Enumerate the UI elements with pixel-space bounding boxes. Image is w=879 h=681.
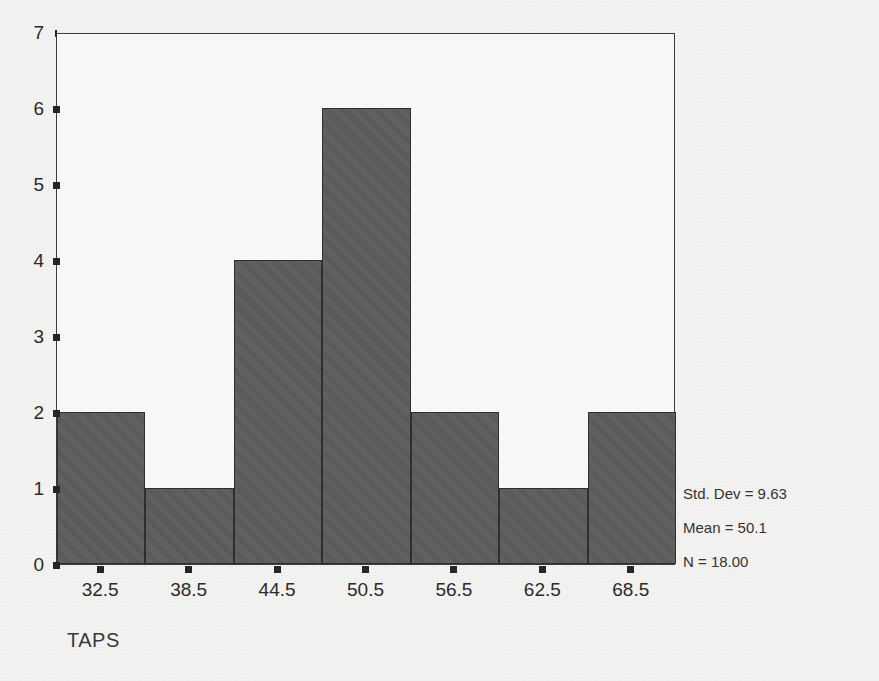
x-axis-title: TAPS <box>67 629 120 652</box>
x-axis-tick <box>627 566 634 573</box>
x-axis-tick-label: 44.5 <box>242 580 312 599</box>
y-axis-tick-label: 6 <box>22 99 44 118</box>
y-axis-tick-label: 1 <box>22 479 44 498</box>
plot-frame <box>56 33 675 565</box>
y-axis-tick <box>53 258 60 265</box>
histogram-bar <box>57 412 145 564</box>
x-axis-tick <box>362 566 369 573</box>
x-axis-tick-label: 62.5 <box>507 580 577 599</box>
y-axis-tick <box>53 106 60 113</box>
y-axis-tick-label: 2 <box>22 403 44 422</box>
x-axis-tick-label: 68.5 <box>596 580 666 599</box>
y-axis-tick-label: 3 <box>22 327 44 346</box>
histogram-bar <box>411 412 499 564</box>
x-axis-tick-label: 38.5 <box>154 580 224 599</box>
statistics-block: Std. Dev = 9.63 Mean = 50.1 N = 18.00 <box>683 477 787 579</box>
y-axis-tick <box>53 182 60 189</box>
mean-text: Mean = 50.1 <box>683 511 787 545</box>
x-axis-tick <box>97 566 104 573</box>
y-axis-tick-label: 5 <box>22 175 44 194</box>
y-axis-tick-label: 7 <box>22 23 44 42</box>
x-axis-tick <box>274 566 281 573</box>
y-axis-tick <box>53 486 60 493</box>
x-axis-tick <box>185 566 192 573</box>
n-text: N = 18.00 <box>683 545 787 579</box>
histogram-bar <box>588 412 676 564</box>
y-axis-tick-label: 4 <box>22 251 44 270</box>
x-axis-tick <box>450 566 457 573</box>
histogram-bar <box>322 108 410 564</box>
histogram-bar <box>234 260 322 564</box>
plot-area <box>57 34 674 564</box>
y-axis-tick-label: 0 <box>22 555 44 574</box>
y-axis-tick <box>53 562 60 569</box>
x-axis-tick <box>539 566 546 573</box>
y-axis-tick <box>53 334 60 341</box>
histogram-figure: 01234567 32.538.544.550.556.562.568.5 TA… <box>0 0 879 681</box>
x-axis-tick-label: 32.5 <box>65 580 135 599</box>
y-axis-tick <box>55 30 57 37</box>
y-axis-tick <box>53 410 60 417</box>
histogram-bar <box>145 488 233 564</box>
histogram-bar <box>499 488 587 564</box>
x-axis-tick-label: 56.5 <box>419 580 489 599</box>
std-dev-text: Std. Dev = 9.63 <box>683 477 787 511</box>
x-axis-tick-label: 50.5 <box>331 580 401 599</box>
